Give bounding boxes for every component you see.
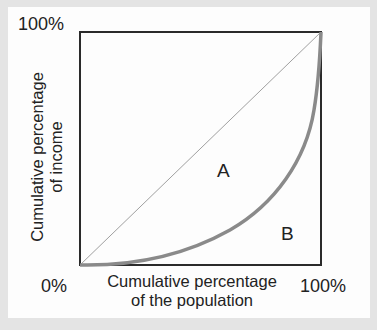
x-axis-title-line1: Cumulative percentage <box>92 272 292 291</box>
y-tick-100: 100% <box>18 14 64 34</box>
x-axis-title-line2: of the population <box>92 291 292 310</box>
y-axis-title: Cumulative percentage of income <box>28 52 66 262</box>
region-a-label: A <box>217 160 230 182</box>
region-b-label: B <box>281 223 294 245</box>
x-axis-title: Cumulative percentage of the population <box>92 272 292 310</box>
origin-tick: 0% <box>41 276 67 296</box>
x-tick-100: 100% <box>300 276 346 296</box>
